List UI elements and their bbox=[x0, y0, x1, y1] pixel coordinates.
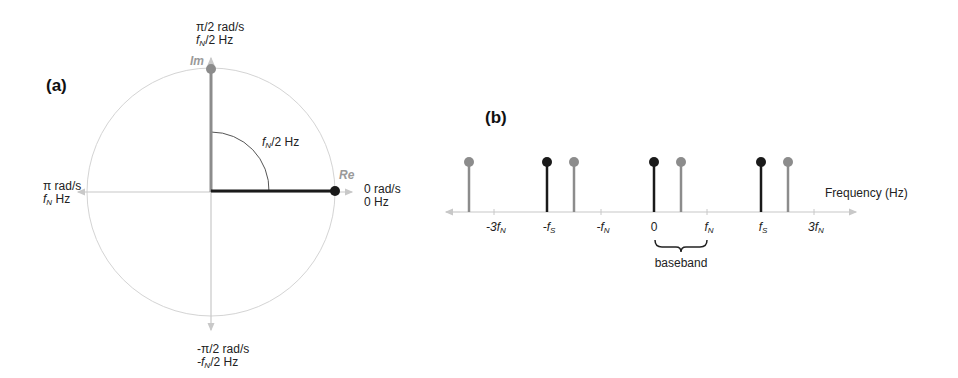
tick-label: -fS bbox=[543, 220, 556, 235]
panel-a-label: (a) bbox=[46, 76, 67, 96]
baseband-label: baseband bbox=[655, 256, 708, 270]
bottom-label: -π/2 rad/s -fN/2 Hz bbox=[197, 343, 249, 372]
angle-arc bbox=[211, 132, 269, 192]
tick-label: 3fN bbox=[808, 220, 824, 235]
grey-phasor-tip bbox=[206, 64, 216, 74]
tick-label: fN bbox=[704, 220, 713, 235]
real-axis-label: Re bbox=[339, 168, 354, 182]
grey-stems bbox=[464, 157, 793, 212]
right-label: 0 rad/s 0 Hz bbox=[364, 183, 401, 209]
tick-label: fS bbox=[759, 220, 768, 235]
tick-label: 0 bbox=[651, 220, 658, 234]
left-label: π rad/s fN Hz bbox=[43, 180, 81, 209]
diagram-canvas bbox=[0, 0, 958, 378]
baseband-brace bbox=[655, 240, 707, 252]
tick-label: -3fN bbox=[486, 220, 506, 235]
frequency-axis-title: Frequency (Hz) bbox=[825, 187, 908, 200]
imag-axis-label: Im bbox=[190, 54, 204, 68]
panel-b-label: (b) bbox=[485, 108, 507, 128]
tick-label: -fN bbox=[596, 220, 609, 235]
dark-phasor-tip bbox=[330, 186, 340, 196]
top-label: π/2 rad/s fN/2 Hz bbox=[196, 21, 244, 50]
arc-label: fN/2 Hz bbox=[262, 136, 299, 152]
